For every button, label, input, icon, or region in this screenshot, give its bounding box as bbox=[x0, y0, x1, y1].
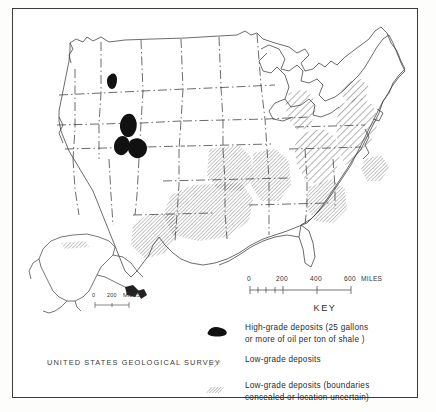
alaska-scale-tick-200: 200 bbox=[107, 292, 117, 298]
alaska-scale-bar bbox=[95, 302, 129, 308]
alaska-inset bbox=[29, 234, 147, 313]
key-item-low-grade-uncertain: Low-grade deposits (boundaries concealed… bbox=[203, 380, 419, 403]
scale-unit-label: MILES bbox=[361, 275, 382, 282]
alaska-scale-unit-label: MILES bbox=[123, 292, 141, 298]
scale-tick-400: 400 bbox=[310, 275, 322, 282]
low-grade-uncertain-swatch-icon bbox=[203, 381, 233, 397]
low-grade-uncertain-label: Low-grade deposits (boundaries concealed… bbox=[245, 380, 369, 403]
key-item-low-grade: Low-grade deposits bbox=[203, 354, 419, 371]
low-grade-label: Low-grade deposits bbox=[245, 354, 321, 366]
scale-tick-600: 600 bbox=[344, 275, 356, 282]
map-frame: 0 200 400 600 MILES 0 200 MILES KEY High… bbox=[12, 8, 418, 398]
scale-tick-0: 0 bbox=[247, 275, 251, 282]
key-title: KEY bbox=[231, 303, 419, 313]
map-key: KEY High-grade deposits (25 gallons or m… bbox=[203, 303, 419, 412]
high-grade-swatch-icon bbox=[203, 323, 233, 339]
usgs-credit-line: UNITED STATES GEOLOGICAL SURVEY bbox=[47, 358, 221, 367]
scale-tick-200: 200 bbox=[276, 275, 288, 282]
high-grade-label: High-grade deposits (25 gallons or more … bbox=[245, 322, 368, 345]
scale-bar bbox=[250, 286, 351, 294]
map-page: 0 200 400 600 MILES 0 200 MILES KEY High… bbox=[0, 0, 436, 412]
key-item-high-grade: High-grade deposits (25 gallons or more … bbox=[203, 322, 419, 345]
alaska-scale-tick-0: 0 bbox=[92, 292, 95, 298]
high-grade-deposit-regions bbox=[107, 74, 147, 159]
